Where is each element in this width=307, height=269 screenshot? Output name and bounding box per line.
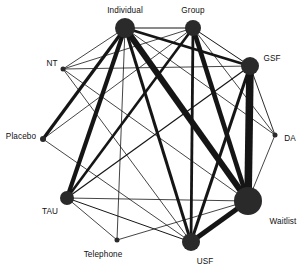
network-edge	[248, 66, 250, 201]
network-edge	[193, 28, 275, 135]
node-label-telephone: Telephone	[84, 250, 123, 259]
network-edge	[43, 28, 125, 139]
node-label-nt: NT	[46, 59, 57, 68]
node-label-group: Group	[181, 6, 205, 15]
node-label-usf: USF	[197, 257, 214, 266]
network-node-individual[interactable]	[115, 18, 135, 38]
network-node-gsf[interactable]	[241, 57, 259, 75]
network-edge	[193, 28, 248, 201]
network-node-telephone[interactable]	[115, 238, 120, 243]
network-edge	[67, 198, 117, 240]
network-graph-figure: IndividualGroupGSFNTPlaceboDATAUWaitlist…	[0, 0, 307, 269]
node-label-gsf: GSF	[263, 54, 280, 63]
network-node-da[interactable]	[273, 133, 278, 138]
network-node-nt[interactable]	[61, 67, 66, 72]
network-node-tau[interactable]	[60, 191, 74, 205]
node-label-tau: TAU	[42, 207, 58, 216]
network-edge	[250, 66, 275, 135]
network-canvas: IndividualGroupGSFNTPlaceboDATAUWaitlist…	[0, 0, 307, 269]
network-node-usf[interactable]	[182, 233, 200, 251]
network-edge	[191, 28, 193, 242]
network-edge	[117, 201, 248, 240]
network-edge	[43, 139, 191, 242]
network-edge	[125, 28, 191, 242]
network-edge	[67, 28, 125, 198]
node-label-waitlist: Waitlist	[270, 217, 298, 226]
network-node-group[interactable]	[185, 20, 201, 36]
network-node-waitlist[interactable]	[234, 187, 262, 215]
network-edge	[67, 198, 191, 242]
labels-layer: IndividualGroupGSFNTPlaceboDATAUWaitlist…	[6, 6, 297, 266]
node-label-placebo: Placebo	[6, 132, 37, 141]
network-node-placebo[interactable]	[40, 136, 46, 142]
node-label-da: DA	[284, 134, 296, 143]
network-edge	[67, 198, 248, 201]
network-edge	[63, 28, 125, 69]
network-edge	[117, 28, 125, 240]
node-label-individual: Individual	[107, 6, 143, 15]
network-edge	[125, 28, 248, 201]
network-edge	[191, 66, 250, 242]
